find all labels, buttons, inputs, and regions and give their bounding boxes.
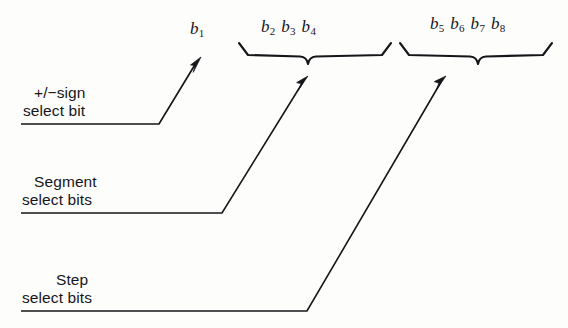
bit-b1: b1 — [190, 19, 204, 38]
callout-label-sign-line1: +/−sign — [34, 84, 86, 102]
brace-segment-bits — [239, 43, 391, 64]
callout-label-sign-line2: select bit — [23, 102, 86, 120]
bit-b5: b5 — [430, 14, 444, 33]
brace-step-bits — [400, 43, 552, 64]
bit-b2: b2 — [261, 17, 275, 36]
callout-label-segment-line1: Segment — [34, 173, 97, 191]
bit-b7: b7 — [471, 14, 485, 33]
bit-b6: b6 — [450, 14, 464, 33]
callout-label-segment-line2: select bits — [22, 191, 97, 209]
callout-label-step-line2: select bits — [22, 289, 92, 307]
callout-label-sign: +/−sign select bit — [34, 84, 86, 120]
callout-label-step-line1: Step — [56, 271, 92, 289]
callout-label-segment: Segment select bits — [34, 173, 97, 209]
bit-group-label-step: b5b6b7b8 — [430, 14, 505, 34]
bit-b3: b3 — [281, 17, 295, 36]
brace-path-segment — [239, 43, 391, 64]
bit-b4: b4 — [302, 17, 316, 36]
bit-group-label-segment: b2b3b4 — [261, 17, 316, 37]
bit-assignment-diagram: b1 b2b3b4 b5b6b7b8 +/−sign select bit Se… — [0, 0, 568, 328]
bit-b8: b8 — [491, 14, 505, 33]
bit-group-label-sign: b1 — [190, 19, 204, 39]
brace-path-step — [400, 43, 552, 64]
arrowhead-step — [434, 76, 446, 90]
callout-label-step: Step select bits — [56, 271, 92, 307]
